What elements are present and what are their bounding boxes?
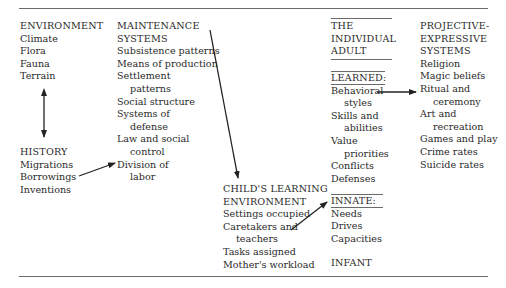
- arrow-icon: [79, 163, 115, 176]
- arrows-layer: [0, 0, 506, 288]
- arrow-icon: [210, 30, 238, 178]
- arrow-icon: [291, 202, 327, 230]
- double-arrow-icon: [41, 88, 47, 137]
